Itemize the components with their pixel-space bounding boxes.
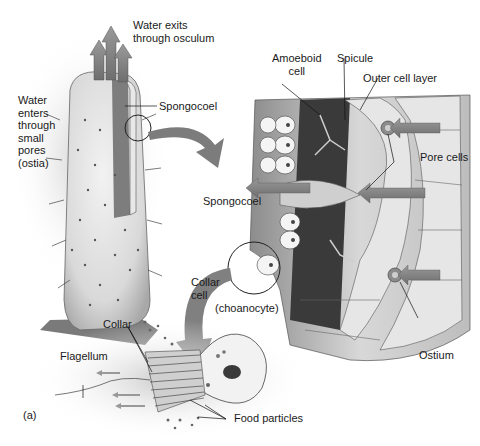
label-spongocoel-mid: Spongocoel <box>203 195 261 208</box>
body-wall-section <box>228 95 470 361</box>
label-collar: Collar <box>103 318 132 331</box>
label-water-enters: Water enters through small pores (ostia) <box>18 94 55 169</box>
label-pore-cells: Pore cells <box>420 151 468 164</box>
label-amoeboid-cell: Amoeboid cell <box>272 52 322 77</box>
sponge-anatomy-diagram: Water exits through osculum Water enters… <box>0 0 480 446</box>
label-choanocyte: (choanocyte) <box>215 302 279 315</box>
label-outer-cell-layer: Outer cell layer <box>363 72 437 85</box>
panel-label: (a) <box>23 409 36 422</box>
label-water-exits: Water exits through osculum <box>133 19 214 44</box>
label-ostium: Ostium <box>419 349 454 362</box>
diagram-artwork <box>0 0 480 446</box>
label-collar-cell: Collar cell <box>191 276 220 301</box>
label-spicule: Spicule <box>337 52 373 65</box>
label-spongocoel-top: Spongocoel <box>159 100 217 113</box>
label-flagellum: Flagellum <box>60 350 108 363</box>
sponge-body <box>10 26 170 345</box>
label-food-particles: Food particles <box>234 412 303 425</box>
